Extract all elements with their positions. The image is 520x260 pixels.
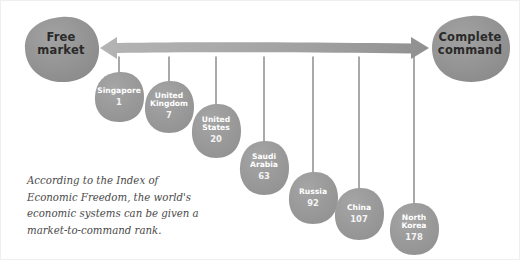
spectrum-arrow xyxy=(100,37,429,59)
complete-command-blob xyxy=(432,16,510,82)
free-market-blob xyxy=(25,17,99,82)
diagram-caption: According to the Index of Economic Freed… xyxy=(27,173,242,239)
bubble-singapore xyxy=(95,72,144,122)
bubble-saudi-arabia xyxy=(240,141,289,195)
caption-line-4: market-to-command rank. xyxy=(27,223,242,240)
bubble-china xyxy=(335,188,384,240)
caption-line-3: economic systems can be given a xyxy=(27,206,242,223)
caption-line-1: According to the Index of xyxy=(27,173,242,190)
bubble-russia xyxy=(289,172,338,224)
caption-line-2: Economic Freedom, the world's xyxy=(27,190,242,207)
diagram-canvas: Free market Complete command Singapore1U… xyxy=(0,0,520,260)
bubble-united-states xyxy=(192,104,241,158)
bubble-north-korea xyxy=(390,203,439,255)
bubble-united-kingdom xyxy=(145,81,194,133)
